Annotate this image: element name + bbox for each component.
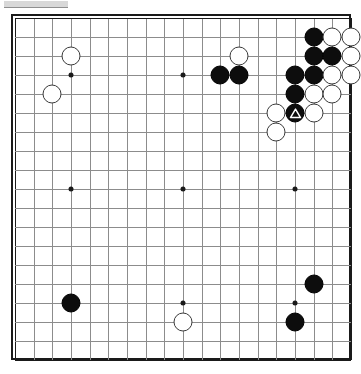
grid-line-horizontal xyxy=(15,132,351,133)
grid-line-horizontal xyxy=(15,284,351,285)
stone-white[interactable] xyxy=(62,47,81,66)
star-point xyxy=(181,73,186,78)
grid-line-horizontal xyxy=(15,360,351,361)
stone-white[interactable] xyxy=(267,123,286,142)
star-point xyxy=(293,187,298,192)
stone-white[interactable] xyxy=(342,28,361,47)
triangle-mark-icon xyxy=(289,107,302,120)
stone-white[interactable] xyxy=(323,66,342,85)
grid-line-horizontal xyxy=(15,246,351,247)
stone-white[interactable] xyxy=(323,85,342,104)
grid-line-horizontal xyxy=(15,227,351,228)
stone-white[interactable] xyxy=(230,47,249,66)
go-board[interactable] xyxy=(11,14,351,360)
stone-black[interactable] xyxy=(304,28,323,47)
grid-line-horizontal xyxy=(15,151,351,152)
star-point xyxy=(181,187,186,192)
stone-black[interactable] xyxy=(211,66,230,85)
star-point xyxy=(181,301,186,306)
stone-white[interactable] xyxy=(174,313,193,332)
stone-black[interactable] xyxy=(286,313,305,332)
grid-line-horizontal xyxy=(15,170,351,171)
go-diagram-app xyxy=(0,0,361,374)
stone-white[interactable] xyxy=(323,28,342,47)
stone-black[interactable] xyxy=(286,85,305,104)
stone-black[interactable] xyxy=(304,47,323,66)
stone-black[interactable] xyxy=(286,66,305,85)
stone-white[interactable] xyxy=(43,85,62,104)
grid-line-horizontal xyxy=(15,18,351,19)
star-point xyxy=(293,301,298,306)
stone-black[interactable] xyxy=(323,47,342,66)
grid-line-horizontal xyxy=(15,265,351,266)
star-point xyxy=(69,73,74,78)
stone-white[interactable] xyxy=(342,47,361,66)
stone-white[interactable] xyxy=(304,85,323,104)
stone-white[interactable] xyxy=(304,104,323,123)
go-board-container[interactable] xyxy=(11,14,351,360)
grid-line-horizontal xyxy=(15,208,351,209)
grid-line-horizontal xyxy=(15,37,351,38)
window-tab-strip xyxy=(4,1,68,8)
star-point xyxy=(69,187,74,192)
stone-white[interactable] xyxy=(267,104,286,123)
stone-black[interactable] xyxy=(304,275,323,294)
stone-black-marked[interactable] xyxy=(286,104,305,123)
stone-black[interactable] xyxy=(304,66,323,85)
stone-black[interactable] xyxy=(230,66,249,85)
stone-black[interactable] xyxy=(62,294,81,313)
grid-line-horizontal xyxy=(15,341,351,342)
stone-white[interactable] xyxy=(342,66,361,85)
